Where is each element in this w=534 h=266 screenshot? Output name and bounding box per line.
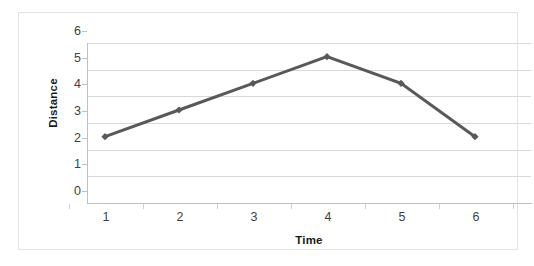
chart-screenshot: 0123456 Distance Time 123456 bbox=[0, 0, 534, 266]
x-axis-line bbox=[87, 203, 532, 204]
x-tick-mark bbox=[439, 204, 440, 209]
chart-frame: 0123456 Distance Time 123456 bbox=[18, 12, 518, 250]
x-axis-title: Time bbox=[87, 234, 531, 246]
x-tick-mark bbox=[291, 204, 292, 209]
gridline bbox=[87, 150, 531, 151]
x-tick-label: 5 bbox=[382, 211, 422, 224]
x-tick-label: 2 bbox=[160, 211, 200, 224]
y-tick-mark bbox=[82, 111, 87, 112]
gridline bbox=[87, 123, 531, 124]
y-tick-mark bbox=[82, 191, 87, 192]
x-tick-mark bbox=[513, 204, 514, 209]
x-tick-mark bbox=[217, 204, 218, 209]
x-tick-mark bbox=[69, 204, 70, 209]
y-tick-mark bbox=[82, 164, 87, 165]
gridline bbox=[87, 70, 531, 71]
gridline bbox=[87, 43, 531, 44]
x-tick-label: 3 bbox=[234, 211, 274, 224]
y-tick-mark bbox=[82, 84, 87, 85]
y-axis-line bbox=[87, 43, 88, 204]
gridline bbox=[87, 176, 531, 177]
y-tick-label: 6 bbox=[55, 25, 81, 38]
y-axis-title: Distance bbox=[47, 63, 59, 143]
x-tick-label: 6 bbox=[456, 211, 496, 224]
y-tick-mark bbox=[82, 58, 87, 59]
x-tick-mark bbox=[365, 204, 366, 209]
plot-area bbox=[87, 43, 531, 203]
x-tick-mark bbox=[143, 204, 144, 209]
y-tick-mark bbox=[82, 31, 87, 32]
y-tick-label: 1 bbox=[55, 158, 81, 171]
y-tick-label: 0 bbox=[55, 185, 81, 198]
x-tick-label: 4 bbox=[308, 211, 348, 224]
y-tick-mark bbox=[82, 138, 87, 139]
gridline bbox=[87, 96, 531, 97]
x-tick-label: 1 bbox=[86, 211, 126, 224]
